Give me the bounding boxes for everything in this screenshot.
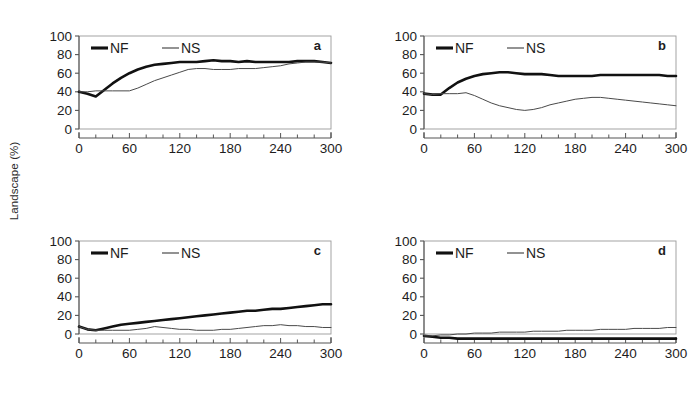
panel-a: 020406080100060120180240300NFNSa [38, 22, 343, 162]
y-tick-label-d-2: 40 [402, 289, 417, 304]
y-tick-label-a-0: 0 [64, 122, 72, 137]
x-tick-label-b-0: 0 [420, 141, 428, 156]
y-tick-label-b-1: 20 [402, 103, 417, 118]
legend-label-ns-c: NS [181, 245, 200, 261]
x-tick-label-d-0: 0 [420, 346, 428, 361]
panel-d: 020406080100060120180240300NFNSd [383, 227, 688, 367]
x-tick-label-c-3: 180 [219, 346, 242, 361]
y-tick-label-d-3: 60 [402, 271, 417, 286]
series-line-nf-d [424, 336, 676, 339]
y-tick-label-a-1: 20 [57, 103, 72, 118]
y-tick-label-a-5: 100 [49, 29, 72, 44]
x-tick-label-b-1: 60 [467, 141, 482, 156]
x-tick-label-a-1: 60 [122, 141, 137, 156]
y-tick-label-c-5: 100 [49, 234, 72, 249]
x-tick-label-c-2: 120 [169, 346, 192, 361]
x-tick-label-d-3: 180 [564, 346, 587, 361]
chart-c: 020406080100060120180240300NFNSc [38, 227, 343, 367]
y-axis-label-text: Landscape (%) [8, 142, 20, 221]
x-tick-label-a-4: 240 [269, 141, 292, 156]
y-tick-label-a-4: 80 [57, 47, 72, 62]
chart-a: 020406080100060120180240300NFNSa [38, 22, 343, 162]
y-tick-label-b-0: 0 [409, 122, 417, 137]
chart-b: 020406080100060120180240300NFNSb [383, 22, 688, 162]
y-tick-label-b-2: 40 [402, 84, 417, 99]
y-tick-label-b-3: 60 [402, 66, 417, 81]
legend-label-nf-b: NF [455, 40, 474, 56]
y-tick-label-d-4: 80 [402, 252, 417, 267]
y-tick-label-a-3: 60 [57, 66, 72, 81]
panel-letter-a: a [314, 38, 322, 53]
y-tick-label-d-5: 100 [394, 234, 417, 249]
x-tick-label-a-5: 300 [320, 141, 343, 156]
x-tick-label-c-0: 0 [75, 346, 83, 361]
x-tick-label-b-4: 240 [614, 141, 637, 156]
x-tick-label-c-5: 300 [320, 346, 343, 361]
y-tick-label-c-1: 20 [57, 308, 72, 323]
panel-c: 020406080100060120180240300NFNSc [38, 227, 343, 367]
y-tick-label-c-2: 40 [57, 289, 72, 304]
panel-letter-c: c [314, 243, 321, 258]
x-tick-label-d-5: 300 [665, 346, 688, 361]
legend-label-ns-d: NS [526, 245, 545, 261]
x-tick-label-d-1: 60 [467, 346, 482, 361]
series-line-ns-a [79, 62, 331, 92]
panel-letter-b: b [658, 38, 666, 53]
panel-b: 020406080100060120180240300NFNSb [383, 22, 688, 162]
x-tick-label-b-3: 180 [564, 141, 587, 156]
x-tick-label-a-3: 180 [219, 141, 242, 156]
x-tick-label-c-1: 60 [122, 346, 137, 361]
series-line-nf-c [79, 304, 331, 330]
legend-label-nf-d: NF [455, 245, 474, 261]
chart-d: 020406080100060120180240300NFNSd [383, 227, 688, 367]
x-tick-label-a-0: 0 [75, 141, 83, 156]
y-tick-label-d-1: 20 [402, 308, 417, 323]
y-tick-label-a-2: 40 [57, 84, 72, 99]
y-axis-label: Landscape (%) [2, 96, 26, 266]
x-tick-label-a-2: 120 [169, 141, 192, 156]
x-tick-label-d-2: 120 [514, 346, 537, 361]
legend-label-ns-b: NS [526, 40, 545, 56]
series-line-nf-b [424, 72, 676, 94]
x-tick-label-b-5: 300 [665, 141, 688, 156]
series-line-ns-d [424, 327, 676, 335]
y-tick-label-c-3: 60 [57, 271, 72, 286]
legend-label-nf-a: NF [110, 40, 129, 56]
y-tick-label-c-0: 0 [64, 327, 72, 342]
y-tick-label-b-4: 80 [402, 47, 417, 62]
series-line-ns-b [424, 93, 676, 111]
y-tick-label-d-0: 0 [409, 327, 417, 342]
x-tick-label-d-4: 240 [614, 346, 637, 361]
legend-label-nf-c: NF [110, 245, 129, 261]
x-tick-label-c-4: 240 [269, 346, 292, 361]
y-tick-label-b-5: 100 [394, 29, 417, 44]
x-tick-label-b-2: 120 [514, 141, 537, 156]
panel-letter-d: d [658, 243, 666, 258]
legend-label-ns-a: NS [181, 40, 200, 56]
y-tick-label-c-4: 80 [57, 252, 72, 267]
